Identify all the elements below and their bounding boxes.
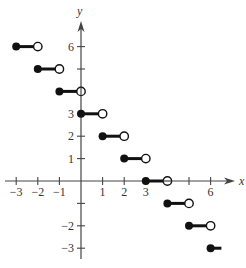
open-endpoint [120, 132, 128, 140]
y-axis-label: y [76, 4, 83, 18]
open-endpoint [206, 222, 214, 230]
open-endpoint [142, 154, 150, 162]
closed-endpoint [77, 110, 85, 118]
open-endpoint [98, 110, 106, 118]
closed-endpoint [142, 177, 150, 185]
y-tick-label: −3 [61, 241, 74, 255]
y-tick-label: 1 [68, 152, 74, 166]
step-segments [12, 42, 221, 252]
y-tick-label: 2 [68, 129, 74, 143]
y-tick-label: −2 [61, 219, 74, 233]
open-endpoint [185, 199, 193, 207]
closed-endpoint [12, 43, 20, 51]
axes [5, 21, 235, 259]
x-tick-label: 2 [121, 185, 127, 199]
closed-endpoint [185, 222, 193, 230]
x-tick-label: 6 [208, 185, 214, 199]
closed-endpoint [55, 87, 63, 95]
closed-endpoint [207, 244, 215, 252]
step-function-chart: −3−2−112366321−2−3 x y [0, 0, 246, 268]
x-axis-label: x [238, 174, 245, 188]
x-tick-label: 1 [100, 185, 106, 199]
closed-endpoint [120, 155, 128, 163]
y-tick-label: 3 [68, 107, 74, 121]
closed-endpoint [163, 199, 171, 207]
closed-endpoint [99, 132, 107, 140]
x-tick-label: −3 [10, 185, 23, 199]
plot-area: −3−2−112366321−2−3 x y [0, 0, 246, 268]
x-tick-label: 3 [143, 185, 149, 199]
x-tick-label: −2 [31, 185, 44, 199]
x-tick-label: −1 [53, 185, 66, 199]
open-endpoint [55, 65, 63, 73]
closed-endpoint [34, 65, 42, 73]
open-endpoint [34, 42, 42, 50]
y-tick-label: 6 [68, 40, 74, 54]
